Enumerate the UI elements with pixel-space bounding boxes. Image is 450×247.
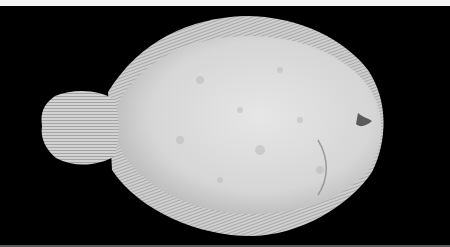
- flatfish-illustration: [0, 0, 450, 247]
- specimen-photo: [0, 0, 450, 247]
- tail-fin: [42, 91, 119, 165]
